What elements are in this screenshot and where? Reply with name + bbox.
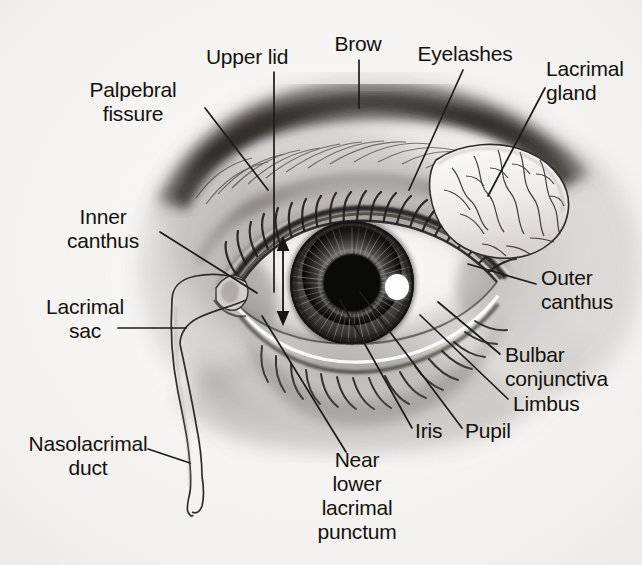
label-eyelashes: Eyelashes <box>385 42 545 66</box>
label-near-lower-lacrimal-punctum: Near lower lacrimal punctum <box>277 448 437 544</box>
label-bulbar-conjunctiva: Bulbar conjunctiva <box>505 343 642 391</box>
label-lacrimal-gland: Lacrimal gland <box>546 57 642 105</box>
label-pupil: Pupil <box>465 419 545 443</box>
eye-anatomy-figure: Palpebral fissure Upper lid Brow Eyelash… <box>0 0 642 565</box>
label-outer-canthus: Outer canthus <box>541 266 642 314</box>
label-iris: Iris <box>415 419 475 443</box>
label-limbus: Limbus <box>513 392 642 416</box>
label-palpebral-fissure: Palpebral fissure <box>53 78 213 126</box>
label-nasolacrimal-duct: Nasolacrimal duct <box>0 432 176 480</box>
label-lacrimal-sac: Lacrimal sac <box>5 295 165 343</box>
label-inner-canthus: Inner canthus <box>23 205 183 253</box>
